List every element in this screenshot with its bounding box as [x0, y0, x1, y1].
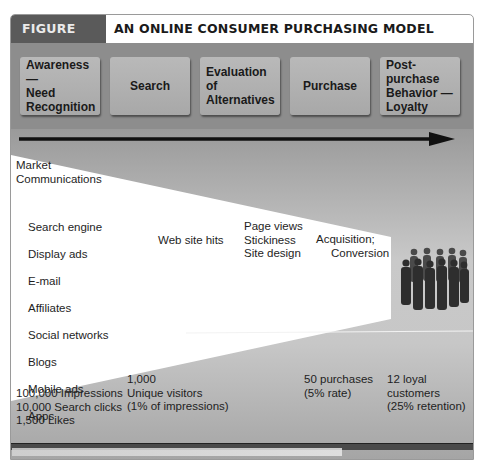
acquisition-label: Acquisition;	[316, 233, 375, 247]
figure-frame: FIGURE 6.11 AN ONLINE CONSUMER PURCHASIN…	[10, 14, 474, 460]
metric-impressions: 100,000 Impressions 10,000 Search clicks…	[16, 387, 123, 428]
stage-label: Evaluation of Alternatives	[206, 65, 275, 107]
stage-search: Search	[110, 57, 190, 115]
market-communications-label: Market Communications	[16, 159, 102, 186]
caption-fragment	[12, 448, 342, 456]
customer-group-icon	[400, 247, 470, 313]
metric-unique-visitors: 1,000 Unique visitors (1% of impressions…	[127, 373, 229, 414]
figure-title: AN ONLINE CONSUMER PURCHASING MODEL	[114, 15, 434, 43]
stage-post-purchase: Post-purchase Behavior — Loyalty	[380, 57, 460, 115]
stage-label: Search	[130, 79, 170, 93]
stage-purchase: Purchase	[290, 57, 370, 115]
right-arrow-icon	[17, 132, 457, 146]
stage-label: Awareness — Need Recognition	[26, 58, 95, 114]
channel-item: Social networks	[28, 329, 109, 343]
site-factors-label: Page views Stickiness Site design	[244, 220, 303, 261]
channel-item: Display ads	[28, 248, 109, 262]
conversion-label: Conversion	[331, 247, 389, 261]
stage-label: Purchase	[303, 79, 357, 93]
metric-loyal-customers: 12 loyal customers (25% retention)	[387, 373, 466, 414]
metric-purchases: 50 purchases (5% rate)	[304, 373, 373, 400]
stage-label: Post-purchase Behavior — Loyalty	[386, 58, 454, 114]
stage-evaluation: Evaluation of Alternatives	[200, 57, 280, 115]
channel-item: E-mail	[28, 275, 109, 289]
stage-awareness: Awareness — Need Recognition	[20, 57, 100, 115]
figure-label: FIGURE 6.11	[11, 15, 106, 43]
web-site-hits-label: Web site hits	[158, 234, 224, 248]
channel-item: Search engine	[28, 221, 109, 235]
channel-item: Affiliates	[28, 302, 109, 316]
channel-item: Blogs	[28, 356, 109, 370]
